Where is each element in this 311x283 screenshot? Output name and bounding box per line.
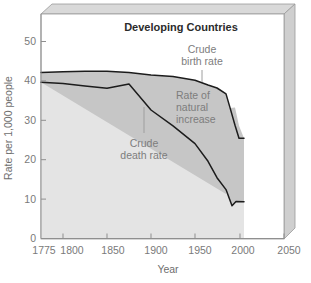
y-axis-title: Rate per 1,000 people (2, 76, 14, 180)
y-tick-label-0: 0 (30, 232, 36, 244)
x-tick-label-1775: 1775 (32, 244, 56, 256)
annotation-crude-death-rate-line2: death rate (120, 149, 167, 161)
frame-top-face (41, 4, 295, 14)
x-tick-label-1950: 1950 (188, 244, 212, 256)
frame-right-face (284, 4, 295, 239)
y-axis-tick-labels: 0 10 20 30 40 50 (24, 35, 36, 244)
annotation-crude-birth-rate-line2: birth rate (181, 55, 223, 67)
y-tick-label-10: 10 (24, 193, 36, 205)
annotation-rate-of-natural-increase-line1: Rate of (176, 89, 210, 101)
x-tick-label-1900: 1900 (144, 244, 168, 256)
y-tick-label-20: 20 (24, 153, 36, 165)
demographic-transition-chart: 0 10 20 30 40 50 1775 1800 1850 1900 195… (0, 0, 311, 283)
annotation-rate-of-natural-increase-line2: natural (176, 101, 208, 113)
x-tick-label-2000: 2000 (231, 244, 255, 256)
x-tick-label-2050: 2050 (277, 244, 301, 256)
y-tick-label-30: 30 (24, 114, 36, 126)
x-axis-title: Year (157, 263, 179, 275)
y-tick-label-50: 50 (24, 35, 36, 47)
annotation-crude-death-rate-line1: Crude (130, 137, 159, 149)
x-tick-label-1850: 1850 (101, 244, 125, 256)
annotation-crude-birth-rate-line1: Crude (188, 43, 217, 55)
y-tick-label-40: 40 (24, 74, 36, 86)
x-axis-tick-labels: 1775 1800 1850 1900 1950 2000 2050 (32, 244, 301, 256)
chart-title: Developing Countries (124, 21, 238, 33)
x-tick-label-1800: 1800 (60, 244, 84, 256)
chart-figure: 0 10 20 30 40 50 1775 1800 1850 1900 195… (0, 0, 311, 283)
annotation-rate-of-natural-increase-line3: increase (176, 113, 216, 125)
